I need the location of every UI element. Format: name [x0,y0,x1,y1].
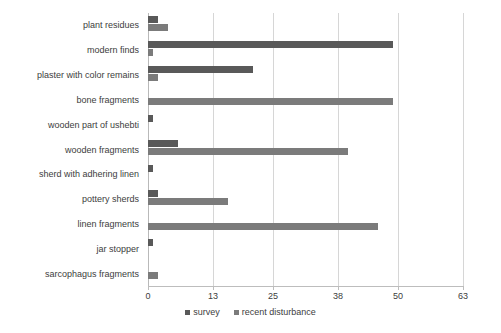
legend-label: survey [193,307,220,318]
bar-recent-disturbance [148,24,168,31]
x-tick-label: 63 [448,291,478,302]
bar-recent-disturbance [148,74,158,81]
bar-group [148,162,463,187]
category-label: plaster with color remains [0,70,144,80]
x-tick-label: 0 [133,291,163,302]
bar-group [148,38,463,63]
x-tick-label: 13 [198,291,228,302]
x-tick-mark [273,286,274,290]
category-label: wooden fragments [0,145,144,155]
x-tick-mark [338,286,339,290]
chart-legend: surveyrecent disturbance [0,307,501,318]
bar-group [148,261,463,286]
bar-survey [148,239,153,246]
bar-survey [148,115,153,122]
bar-chart: plant residuesmodern findsplaster with c… [0,0,501,333]
bar-group [148,187,463,212]
category-label: plant residues [0,20,144,30]
category-label: jar stopper [0,244,144,254]
category-label: wooden part of ushebti [0,120,144,130]
bar-group [148,87,463,112]
bar-group [148,112,463,137]
bar-survey [148,41,393,48]
x-tick-label: 38 [323,291,353,302]
bar-survey [148,165,153,172]
bar-group [148,212,463,237]
legend-item-survey[interactable]: survey [185,307,220,318]
bar-group [148,236,463,261]
category-axis-labels: plant residuesmodern findsplaster with c… [0,13,144,286]
bar-group [148,13,463,38]
bar-recent-disturbance [148,148,348,155]
bar-recent-disturbance [148,49,153,56]
x-tick-mark [213,286,214,290]
x-tick-mark [398,286,399,290]
bar-recent-disturbance [148,198,228,205]
bar-group [148,63,463,88]
category-label: sherd with adhering linen [0,169,144,179]
category-label: sarcophagus fragments [0,269,144,279]
bar-survey [148,16,158,23]
bar-survey [148,190,158,197]
bar-recent-disturbance [148,98,393,105]
legend-item-recent[interactable]: recent disturbance [234,307,316,318]
plot-area [148,13,463,286]
bar-recent-disturbance [148,272,158,279]
bar-survey [148,66,253,73]
category-label: pottery sherds [0,194,144,204]
x-tick-label: 25 [258,291,288,302]
x-tick-mark [463,286,464,290]
x-tick-mark [148,286,149,290]
legend-swatch-icon [185,310,190,315]
legend-label: recent disturbance [242,307,316,318]
category-label: modern finds [0,45,144,55]
category-label: bone fragments [0,95,144,105]
legend-swatch-icon [234,310,239,315]
bar-recent-disturbance [148,223,378,230]
x-tick-label: 50 [383,291,413,302]
gridline-63 [463,13,464,286]
category-label: linen fragments [0,219,144,229]
x-axis-line [148,286,464,287]
bar-group [148,137,463,162]
bar-survey [148,140,178,147]
